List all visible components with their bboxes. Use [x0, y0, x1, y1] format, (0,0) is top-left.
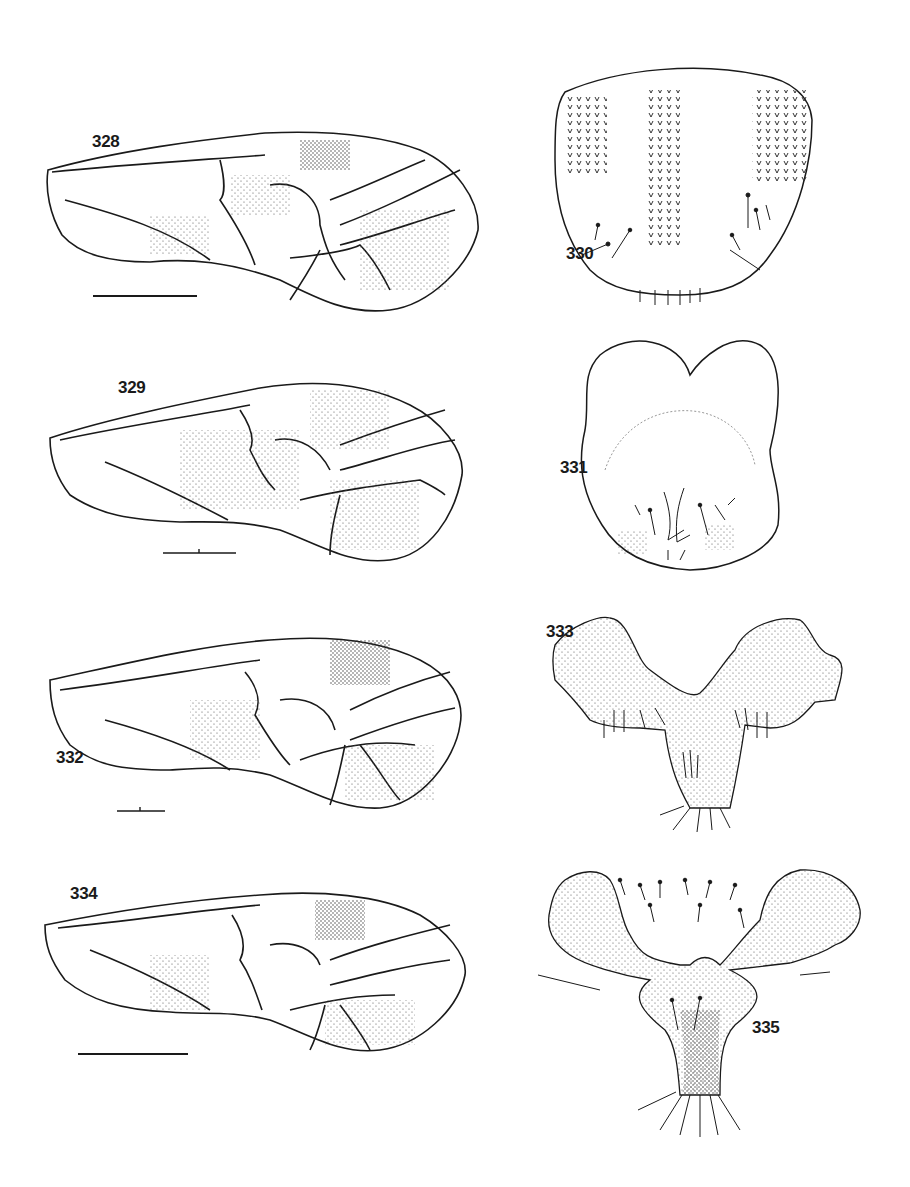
figure-label-329: 329: [118, 378, 145, 398]
figure-label-330: 330: [566, 244, 593, 264]
figure-label-332: 332: [56, 748, 83, 768]
wing-328: [47, 132, 478, 311]
wing-332: [50, 638, 461, 811]
plate-331: [581, 341, 778, 570]
figure-label-334: 334: [70, 884, 97, 904]
figure-plate: 328 329 330 331 332 333 334 335: [0, 0, 910, 1187]
wing-334: [45, 893, 465, 1054]
plate-330: [555, 68, 812, 305]
figure-label-328: 328: [92, 132, 119, 152]
figure-label-333: 333: [546, 622, 573, 642]
wing-329: [50, 383, 462, 560]
plate-drawings: [0, 0, 910, 1187]
plate-333: [553, 617, 842, 832]
plate-335: [538, 870, 860, 1137]
figure-label-335: 335: [752, 1018, 779, 1038]
figure-label-331: 331: [560, 458, 587, 478]
